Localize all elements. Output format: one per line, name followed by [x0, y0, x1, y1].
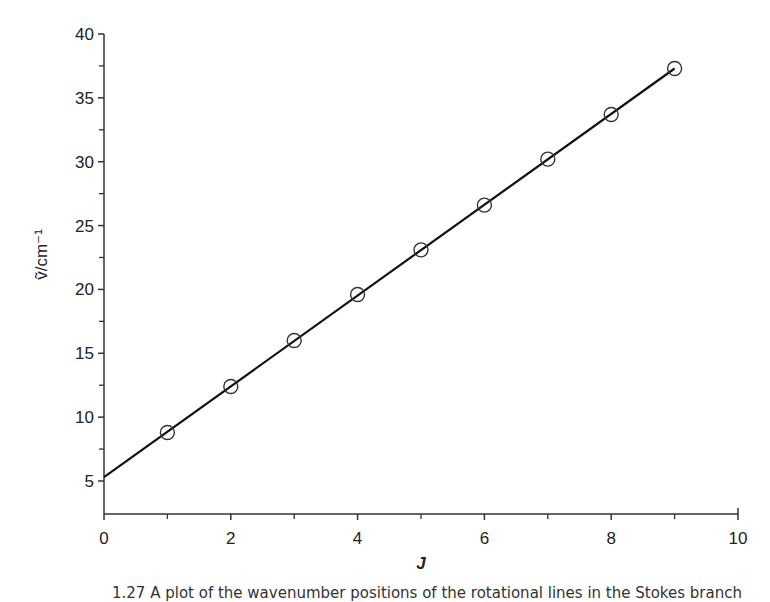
x-tick-label: 2: [226, 529, 235, 548]
figure-caption: 1.27 A plot of the wavenumber positions …: [112, 584, 742, 602]
y-tick-label: 40: [75, 25, 94, 44]
y-tick-label: 25: [75, 217, 94, 236]
y-axis-label: ṽ/cm⁻¹: [32, 229, 51, 280]
x-tick-label: 6: [480, 529, 489, 548]
x-axis-label: J: [416, 554, 426, 573]
y-tick-label: 15: [75, 344, 94, 363]
y-tick-label: 30: [75, 153, 94, 172]
y-tick-label: 35: [75, 89, 94, 108]
y-tick-label: 10: [75, 408, 94, 427]
y-tick-label: 20: [75, 280, 94, 299]
fit-line: [104, 68, 675, 477]
x-tick-label: 4: [353, 529, 362, 548]
x-tick-label: 0: [99, 529, 108, 548]
x-tick-label: 8: [606, 529, 615, 548]
x-tick-label: 10: [729, 529, 748, 548]
axes: 5101520253035400246810: [75, 25, 747, 548]
y-tick-label: 5: [85, 472, 94, 491]
